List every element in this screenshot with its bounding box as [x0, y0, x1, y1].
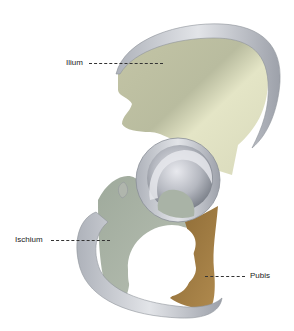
leader-line-ischium	[51, 240, 110, 241]
label-ilium: Ilium	[66, 59, 83, 67]
leader-line-pubis	[205, 276, 245, 277]
label-ischium: Ischium	[15, 236, 43, 244]
label-pubis: Pubis	[250, 272, 270, 280]
leader-line-ilium	[89, 63, 163, 64]
hip-bone-illustration	[0, 0, 294, 331]
